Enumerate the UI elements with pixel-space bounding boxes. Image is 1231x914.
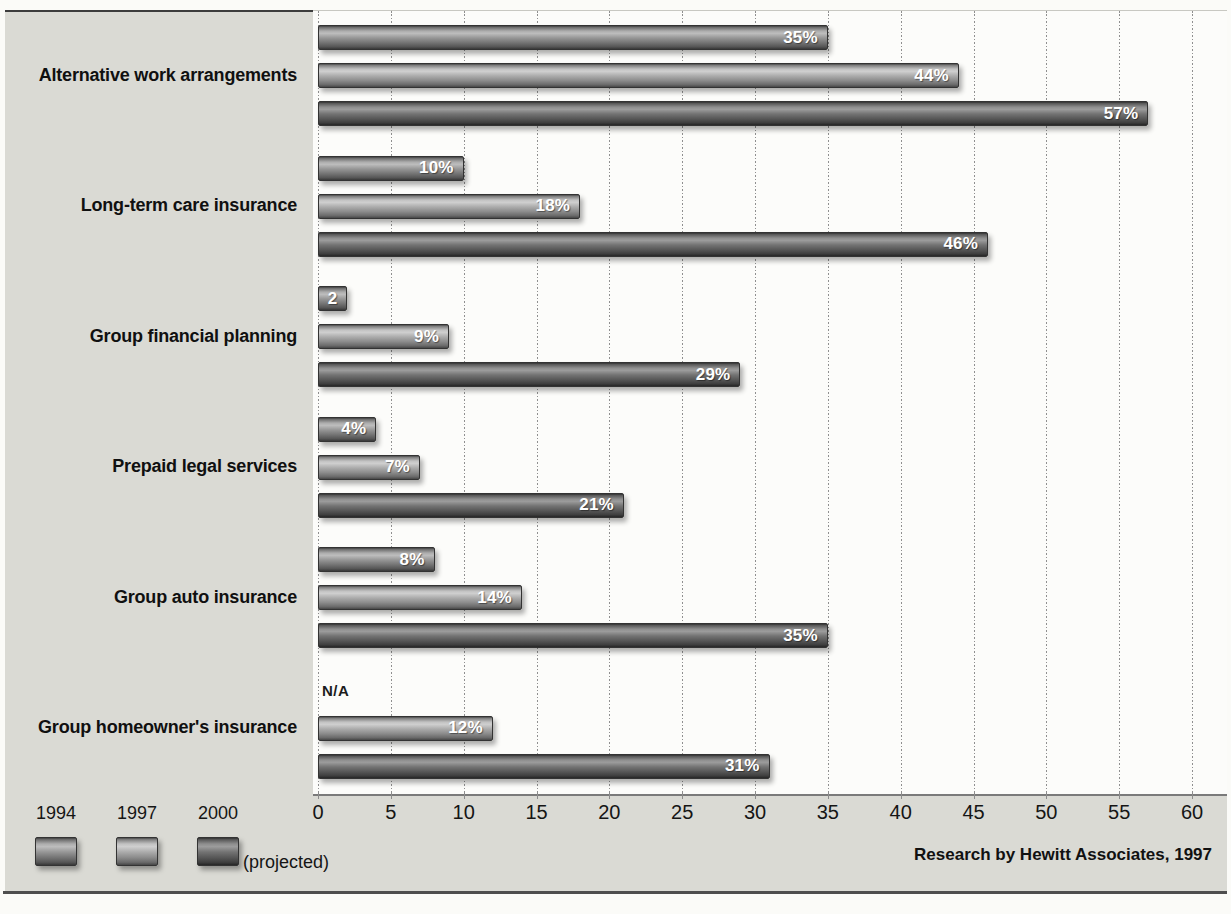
- legend-item-1994: 1994: [33, 803, 79, 866]
- bar-value-label: 7%: [385, 457, 410, 477]
- legend-swatch-2000-icon: [197, 837, 239, 866]
- legend-item-1997: 1997: [114, 803, 160, 866]
- bar-value-label: 9%: [414, 327, 439, 347]
- legend-label-1994: 1994: [33, 803, 79, 824]
- bar-2000: 31%: [318, 754, 770, 779]
- category-label: Prepaid legal services: [5, 402, 297, 533]
- legend-item-2000: 2000: [195, 803, 241, 866]
- bar-2000: 57%: [318, 101, 1148, 126]
- bar-value-label: 18%: [536, 196, 571, 216]
- legend-swatch-1997-icon: [116, 837, 158, 866]
- bar-value-label: 31%: [725, 756, 760, 776]
- legend-note: (projected): [243, 852, 329, 873]
- gridline: [537, 11, 538, 794]
- bar-value-label: 57%: [1104, 104, 1139, 124]
- bar-1997: 12%: [318, 716, 493, 741]
- na-label: N/A: [322, 682, 349, 699]
- bar-2000: 21%: [318, 493, 624, 518]
- gridline: [464, 11, 465, 794]
- bar-value-label: 10%: [419, 158, 454, 178]
- bar-1994: 2: [318, 286, 347, 311]
- category-label: Group auto insurance: [5, 532, 297, 663]
- bar-value-label: 21%: [579, 495, 614, 515]
- bar-1997: 44%: [318, 63, 959, 88]
- bar-1994: 8%: [318, 547, 435, 572]
- bar-value-label: 8%: [400, 550, 425, 570]
- bar-value-label: 35%: [783, 28, 818, 48]
- legend-label-1997: 1997: [114, 803, 160, 824]
- legend-swatch-1994-icon: [35, 837, 77, 866]
- gridline: [609, 11, 610, 794]
- gridline: [1119, 11, 1120, 794]
- gridline: [318, 11, 319, 794]
- bar-value-label: 14%: [477, 588, 512, 608]
- gridline: [1046, 11, 1047, 794]
- bar-value-label: 4%: [341, 419, 366, 439]
- bar-1997: 9%: [318, 324, 449, 349]
- gridline: [974, 11, 975, 794]
- bar-1997: 7%: [318, 455, 420, 480]
- bar-value-label: 46%: [943, 234, 978, 254]
- bar-value-label: 35%: [783, 626, 818, 646]
- bar-1997: 14%: [318, 585, 522, 610]
- bar-1994: 10%: [318, 156, 464, 181]
- category-label: Group homeowner's insurance: [5, 663, 297, 794]
- legend-label-2000: 2000: [195, 803, 241, 824]
- category-label: Alternative work arrangements: [5, 10, 297, 141]
- gridline: [1192, 11, 1193, 794]
- category-label: Long-term care insurance: [5, 141, 297, 272]
- category-label: Group financial planning: [5, 271, 297, 402]
- gridline: [391, 11, 392, 794]
- bar-value-label: 2: [328, 289, 338, 309]
- gridline: [901, 11, 902, 794]
- bar-2000: 35%: [318, 623, 828, 648]
- source-credit: Research by Hewitt Associates, 1997: [914, 845, 1212, 865]
- bar-value-label: 29%: [696, 365, 731, 385]
- bar-value-label: 44%: [914, 66, 949, 86]
- bar-1994: 35%: [318, 25, 828, 50]
- category-label-column: Alternative work arrangementsLong-term c…: [5, 10, 297, 793]
- bar-1994: 4%: [318, 417, 376, 442]
- bar-2000: 46%: [318, 232, 988, 257]
- bar-value-label: 12%: [448, 718, 483, 738]
- plot-area: 35%44%57%10%18%46%29%29%4%7%21%8%14%35%N…: [313, 10, 1227, 796]
- bottom-rule: [3, 891, 1227, 894]
- gridline: [682, 11, 683, 794]
- gridline: [755, 11, 756, 794]
- bar-1997: 18%: [318, 194, 580, 219]
- bar-2000: 29%: [318, 362, 740, 387]
- chart-figure: 35%44%57%10%18%46%29%29%4%7%21%8%14%35%N…: [0, 0, 1231, 914]
- gridline: [828, 11, 829, 794]
